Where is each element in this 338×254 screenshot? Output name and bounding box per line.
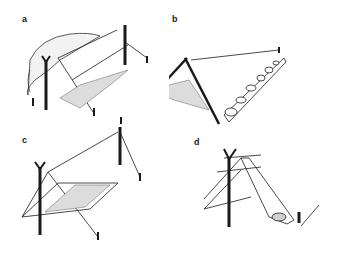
shelter-d-illustration: [169, 127, 338, 254]
shelter-c-illustration: [0, 127, 169, 254]
shelter-a-illustration: [0, 0, 169, 127]
panel-b: b: [169, 0, 338, 127]
panel-a: a: [0, 0, 169, 127]
panel-c: c: [0, 127, 169, 254]
panel-d: d: [169, 127, 338, 254]
shelter-b-illustration: [169, 0, 338, 127]
